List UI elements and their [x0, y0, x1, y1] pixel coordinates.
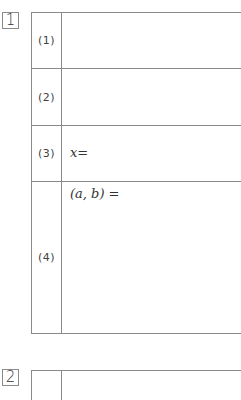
row-label: (4) — [32, 182, 62, 333]
answer-row-2: (2) — [32, 69, 241, 126]
answer-row-4: (4) (a, b) = — [32, 182, 241, 334]
answer-row-1: (1) — [32, 13, 241, 69]
answer-row-3: (3) x= — [32, 126, 241, 182]
answer-field[interactable] — [70, 13, 241, 68]
row-label: (3) — [32, 126, 62, 181]
row-label-column — [32, 371, 62, 400]
answer-prefix[interactable]: x= — [70, 145, 88, 160]
row-label: (2) — [32, 69, 62, 125]
answer-prefix[interactable]: (a, b) = — [70, 186, 120, 201]
answer-field[interactable] — [70, 69, 241, 125]
question-number-2: 2 — [2, 369, 19, 386]
answer-table-1: (1) (2) (3) x= (4) (a, b) = — [31, 12, 241, 334]
question-number-1: 1 — [2, 12, 19, 29]
row-label: (1) — [32, 13, 62, 68]
answer-table-2 — [31, 370, 241, 400]
